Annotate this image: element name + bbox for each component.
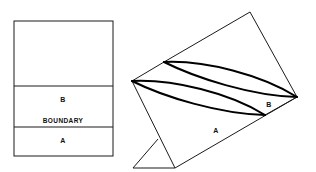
boundary-diagram-svg: B BOUNDARY A A B (0, 0, 316, 172)
lower-lens-top-arc (132, 81, 265, 115)
cross-section-label-a: A (60, 137, 65, 144)
edge-apex-to-upperleft (164, 12, 250, 62)
edge-foot-left-to-stem (133, 139, 158, 168)
right-perspective-group: A B (132, 12, 297, 168)
upper-lens-bottom-arc (164, 62, 297, 97)
figure-root: B BOUNDARY A A B (0, 0, 316, 172)
left-cross-section-group: B BOUNDARY A (14, 21, 113, 156)
perspective-label-a: A (213, 127, 218, 134)
cross-section-background (14, 21, 113, 156)
perspective-label-b: B (266, 101, 271, 108)
upper-lens-top-arc (164, 62, 297, 97)
cross-section-label-boundary: BOUNDARY (43, 117, 84, 124)
edge-left-to-lowerleft (132, 81, 175, 168)
lower-lens-bottom-arc (132, 81, 265, 115)
cross-section-label-b: B (60, 96, 65, 103)
edge-upperleft-to-left (132, 62, 164, 81)
